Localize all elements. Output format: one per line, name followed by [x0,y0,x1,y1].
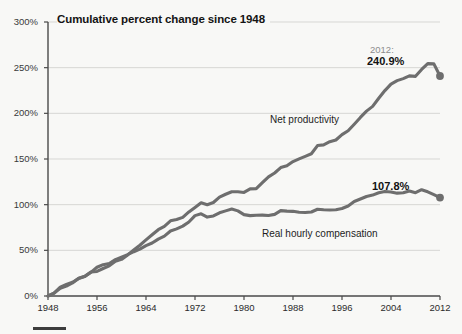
y-tick-label: 100% [4,199,38,210]
y-tick-label: 150% [4,153,38,164]
endpoint-dot-net-productivity [436,194,444,202]
series-label-real-hourly-compensation: Real hourly compensation [262,228,378,239]
series-label-net-productivity: Net productivity [270,114,339,125]
endpoint-year-label: 2012: [370,44,394,55]
x-tick-label: 1988 [273,302,313,313]
y-tick-label: 250% [4,62,38,73]
x-tick-label: 1964 [126,302,166,313]
x-tick-label: 1956 [77,302,117,313]
x-tick-label: 1996 [322,302,362,313]
x-tick-label: 2012 [420,302,460,313]
x-tick-label: 2004 [371,302,411,313]
y-tick-label: 300% [4,16,38,27]
endpoint-value-real-hourly-compensation: 107.8% [372,180,409,192]
footer-rule [33,327,66,330]
y-tick-label: 0% [4,290,38,301]
x-tick-label: 1980 [224,302,264,313]
endpoint-dot-real-hourly-compensation [436,72,444,80]
y-tick-label: 50% [4,244,38,255]
x-tick-label: 1948 [28,302,68,313]
chart-page: Cumulative percent change since 1948 0%5… [0,0,462,334]
chart-title: Cumulative percent change since 1948 [57,13,270,25]
endpoint-value-net-productivity: 240.9% [367,55,404,67]
x-tick-label: 1972 [175,302,215,313]
y-tick-label: 200% [4,107,38,118]
